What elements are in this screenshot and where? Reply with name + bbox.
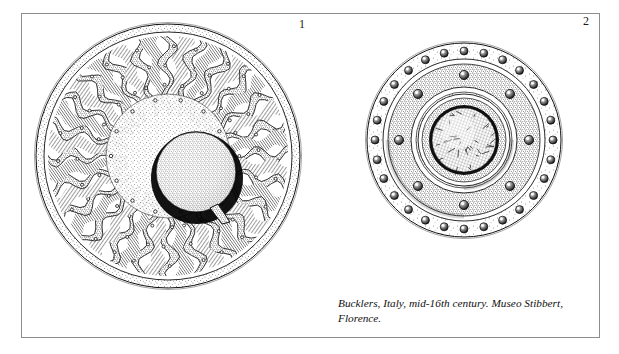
plate-page: 1 2 Bucklers, Italy, mid-16th century. M… [0,0,619,354]
figure-1-buckler [35,23,302,290]
figure-number-2: 2 [583,14,589,29]
plate-caption: Bucklers, Italy, mid-16th century. Museo… [338,296,588,325]
figure-number-1: 1 [299,17,305,32]
figure-2-buckler [366,42,563,239]
